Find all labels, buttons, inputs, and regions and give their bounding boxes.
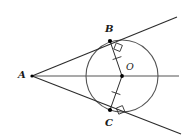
label-point-b: B <box>105 24 113 34</box>
label-point-c: C <box>105 118 113 128</box>
geometry-canvas <box>0 0 190 140</box>
point-a-dot <box>30 74 33 77</box>
geometry-figure: A B C O <box>0 0 190 140</box>
point-c-dot <box>108 108 112 112</box>
congruence-tick-ob <box>113 57 122 60</box>
label-point-o: O <box>126 62 134 72</box>
label-point-a: A <box>18 70 26 80</box>
right-angle-marker-b <box>114 43 123 52</box>
point-b-dot <box>108 39 112 43</box>
point-o-dot <box>120 74 124 78</box>
